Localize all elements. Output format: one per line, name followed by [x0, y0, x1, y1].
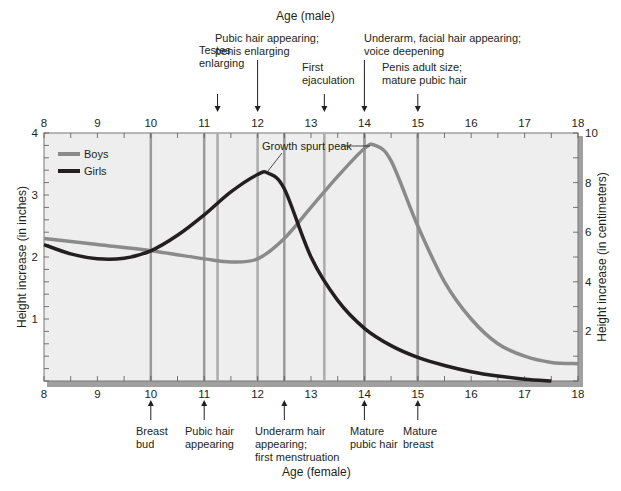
arrow-up-icon — [148, 400, 154, 406]
top-x-tick-label: 17 — [518, 117, 531, 129]
right-y-tick-label: 8 — [585, 177, 591, 189]
female-milestone: Maturebreast — [403, 400, 437, 450]
top-x-tick-label: 10 — [144, 117, 157, 129]
right-y-tick-label: 2 — [585, 325, 591, 337]
left-y-tick-label: 3 — [32, 189, 38, 201]
bottom-axis-title: Age (female) — [282, 465, 351, 479]
left-y-tick-label: 2 — [32, 251, 38, 263]
male-milestone-label: Underarm, facial hair appearing; — [364, 32, 521, 44]
puberty-growth-chart: 8899101011111212131314141515161617171818… — [0, 0, 621, 491]
arrow-down-icon — [255, 106, 261, 112]
male-milestone-label: First — [302, 61, 323, 73]
bottom-x-tick-label: 9 — [94, 388, 100, 400]
bottom-x-tick-label: 15 — [411, 388, 424, 400]
bottom-x-tick-label: 16 — [465, 388, 478, 400]
bottom-x-tick-label: 10 — [144, 388, 157, 400]
female-milestone: Underarm hairappearing;first menstruatio… — [255, 400, 339, 463]
male-milestone: Firstejaculation — [302, 61, 355, 112]
female-milestone-label: Mature — [350, 425, 384, 437]
female-milestone-label: breast — [403, 438, 434, 450]
male-milestone-label: Penis adult size; — [382, 61, 462, 73]
arrow-up-icon — [415, 400, 421, 406]
male-milestones: TestesenlargingPubic hair appearing;peni… — [199, 32, 521, 112]
left-y-tick-label: 1 — [32, 313, 38, 325]
top-x-tick-label: 16 — [465, 117, 478, 129]
male-milestone-label: voice deepening — [364, 45, 444, 57]
top-x-tick-label: 11 — [198, 117, 210, 129]
female-milestone-label: Pubic hair — [185, 425, 234, 437]
female-milestone-label: appearing — [185, 438, 234, 450]
left-y-tick-label: 4 — [32, 127, 39, 139]
arrow-down-icon — [215, 106, 221, 112]
male-milestone-label: ejaculation — [302, 74, 355, 86]
bottom-x-tick-label: 17 — [518, 388, 531, 400]
female-milestone-label: Breast — [136, 425, 168, 437]
top-x-tick-label: 14 — [358, 117, 371, 129]
bottom-x-tick-label: 14 — [358, 388, 371, 400]
female-milestone-label: Mature — [403, 425, 437, 437]
top-x-tick-label: 18 — [572, 117, 585, 129]
right-y-tick-label: 4 — [585, 276, 592, 288]
arrow-up-icon — [201, 400, 207, 406]
male-milestone-label: enlarging — [199, 57, 244, 69]
female-milestone-label: appearing; — [255, 438, 307, 450]
right-y-tick-label: 6 — [585, 226, 591, 238]
arrow-up-icon — [361, 400, 367, 406]
top-x-tick-label: 13 — [305, 117, 318, 129]
arrow-down-icon — [361, 106, 367, 112]
arrow-down-icon — [321, 106, 327, 112]
top-x-tick-label: 12 — [251, 117, 264, 129]
arrow-up-icon — [281, 400, 287, 406]
male-milestone-label: Pubic hair appearing; — [215, 32, 319, 44]
legend-girls-label: Girls — [84, 165, 107, 177]
female-milestone: Breastbud — [136, 400, 168, 450]
bottom-x-tick-label: 12 — [251, 388, 264, 400]
bottom-x-tick-label: 18 — [572, 388, 585, 400]
female-milestone-label: bud — [136, 438, 154, 450]
right-y-tick-label: 10 — [585, 127, 598, 139]
female-milestone-label: first menstruation — [255, 451, 339, 463]
top-axis-title: Age (male) — [276, 9, 335, 23]
male-milestone-label: mature pubic hair — [382, 74, 467, 86]
female-milestone-label: Underarm hair — [255, 425, 326, 437]
left-axis-title: Height increase (in inches) — [15, 186, 29, 328]
top-x-tick-label: 15 — [411, 117, 424, 129]
right-axis-title: Height increase (in centimeters) — [595, 172, 609, 341]
female-milestone: Maturepubic hair — [350, 400, 398, 450]
male-milestone-label: penis enlarging — [215, 45, 290, 57]
bottom-x-tick-label: 13 — [305, 388, 318, 400]
top-x-tick-label: 8 — [41, 117, 47, 129]
female-milestone-label: pubic hair — [350, 438, 398, 450]
growth-spurt-label: Growth spurt peak — [262, 140, 352, 152]
top-x-tick-label: 9 — [94, 117, 100, 129]
male-milestone: Penis adult size;mature pubic hair — [382, 61, 467, 112]
arrow-down-icon — [415, 106, 421, 112]
female-milestone: Pubic hairappearing — [185, 400, 234, 450]
bottom-x-tick-label: 8 — [41, 388, 47, 400]
female-milestones: BreastbudPubic hairappearingUnderarm hai… — [136, 400, 437, 463]
bottom-x-tick-label: 11 — [198, 388, 210, 400]
legend-boys-label: Boys — [84, 148, 109, 160]
